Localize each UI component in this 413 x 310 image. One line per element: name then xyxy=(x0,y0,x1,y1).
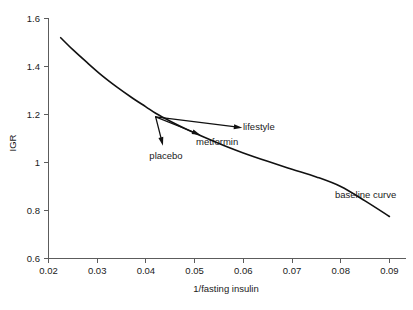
y-tick-label: 1.4 xyxy=(27,61,40,72)
annotation-arrowhead-placebo xyxy=(158,137,163,146)
y-tick-label: 1.6 xyxy=(27,13,40,24)
annotation-arrowhead-lifestyle xyxy=(234,124,243,129)
x-tick-label: 0.06 xyxy=(234,265,253,276)
y-tick-label: 0.6 xyxy=(27,253,40,264)
x-tick-label: 0.07 xyxy=(283,265,302,276)
y-axis-ticks: 0.6 0.8 1 1.2 1.4 1.6 xyxy=(27,13,49,264)
x-tick-label: 0.05 xyxy=(185,265,204,276)
annotation-label-metformin: metformin xyxy=(196,136,238,147)
x-tick-label: 0.04 xyxy=(137,265,156,276)
chart-svg: 0.6 0.8 1 1.2 1.4 1.6 0.02 0.03 0.04 0.0… xyxy=(0,0,413,310)
x-tick-label: 0.02 xyxy=(39,265,58,276)
annotation-arrow-placebo xyxy=(156,117,161,138)
x-axis-title: 1/fasting insulin xyxy=(193,283,258,294)
annotation-label-placebo: placebo xyxy=(149,150,182,161)
annotation-arrowhead-metformin xyxy=(192,129,201,134)
x-axis-ticks: 0.02 0.03 0.04 0.05 0.06 0.07 0.08 0.09 xyxy=(39,259,398,277)
annotation-label-lifestyle: lifestyle xyxy=(243,121,275,132)
x-tick-label: 0.09 xyxy=(380,265,399,276)
x-tick-label: 0.08 xyxy=(331,265,350,276)
y-tick-label: 1.2 xyxy=(27,109,40,120)
y-tick-label: 1 xyxy=(35,157,40,168)
y-tick-label: 0.8 xyxy=(27,205,40,216)
y-axis-title: IGR xyxy=(7,134,18,151)
x-tick-label: 0.03 xyxy=(88,265,107,276)
annotation-label-baseline-curve: baseline curve xyxy=(335,189,396,200)
chart-figure: 0.6 0.8 1 1.2 1.4 1.6 0.02 0.03 0.04 0.0… xyxy=(0,0,413,310)
